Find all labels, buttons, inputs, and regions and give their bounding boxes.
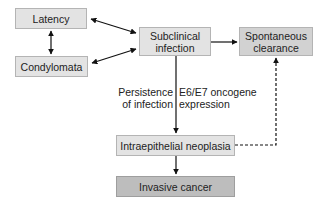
edge-label-persistence: Persistence of infection (113, 86, 173, 110)
oncogene-line2: expression (179, 98, 269, 110)
node-condylomata: Condylomata (15, 56, 88, 77)
edge-label-oncogene: E6/E7 oncogene expression (179, 86, 269, 110)
node-subclinical-infection-label: Subclinical infection (145, 30, 205, 54)
arrow-latency-subclinical (91, 19, 136, 33)
node-latency-label: Latency (33, 13, 70, 25)
oncogene-line1: E6/E7 oncogene (179, 86, 269, 98)
persistence-line2: of infection (113, 98, 173, 110)
arrow-condylomata-subclinical (92, 49, 136, 63)
node-intraepithelial-neoplasia: Intraepithelial neoplasia (116, 135, 235, 156)
node-condylomata-label: Condylomata (21, 61, 83, 73)
node-intraepithelial-neoplasia-label: Intraepithelial neoplasia (120, 140, 230, 152)
node-latency: Latency (15, 8, 87, 29)
persistence-line1: Persistence (113, 86, 173, 98)
node-invasive-cancer: Invasive cancer (116, 176, 235, 197)
node-invasive-cancer-label: Invasive cancer (139, 181, 212, 193)
node-spontaneous-clearance: Spontaneous clearance (239, 27, 313, 56)
node-spontaneous-clearance-label: Spontaneous clearance (243, 30, 309, 54)
node-subclinical-infection: Subclinical infection (139, 27, 211, 56)
